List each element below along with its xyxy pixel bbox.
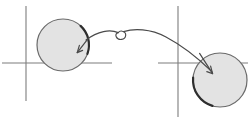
figure-container: Two coordinate frames with disks joined … <box>0 0 250 121</box>
left-disk <box>37 19 89 71</box>
diagram-canvas: Two coordinate frames with disks joined … <box>0 0 250 121</box>
